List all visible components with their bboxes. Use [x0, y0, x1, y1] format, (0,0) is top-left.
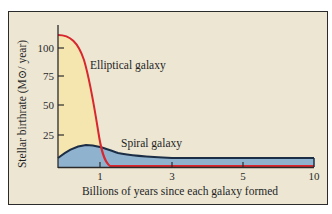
chart: 100 75 50 25 1 3 5 10 Billions of years …	[0, 0, 332, 214]
spiral-area	[58, 145, 314, 167]
y-tick-50: 50	[43, 99, 55, 111]
x-tick-1: 1	[97, 170, 103, 182]
x-tick-5: 5	[240, 170, 246, 182]
x-tick-10: 10	[309, 170, 321, 182]
spiral-label: Spiral galaxy	[121, 137, 182, 150]
elliptical-label: Elliptical galaxy	[90, 59, 166, 72]
x-axis-label: Billions of years since each galaxy form…	[82, 185, 278, 198]
y-axis-label: Stellar birthrate (M⊙/ year)	[16, 40, 29, 168]
y-tick-100: 100	[38, 42, 55, 54]
x-tick-3: 3	[169, 170, 175, 182]
y-tick-75: 75	[43, 70, 55, 82]
y-tick-25: 25	[43, 129, 55, 141]
